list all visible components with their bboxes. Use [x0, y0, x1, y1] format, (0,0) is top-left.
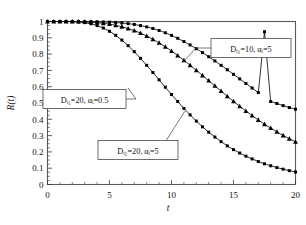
- data-point-marker: [120, 39, 123, 42]
- y-tick-label: 0.1: [32, 163, 43, 173]
- data-point-marker: [220, 140, 223, 143]
- data-point-marker: [158, 78, 161, 81]
- data-point-marker: [182, 40, 185, 43]
- data-point-marker: [189, 43, 192, 46]
- data-point-marker: [176, 37, 179, 40]
- data-point-marker: [281, 133, 286, 138]
- data-point-marker: [250, 113, 255, 118]
- y-axis-tick-labels: 00.10.20.30.40.50.60.70.80.91: [32, 17, 44, 190]
- data-point-marker: [251, 157, 254, 160]
- data-point-marker: [83, 21, 86, 24]
- data-point-marker: [220, 64, 223, 67]
- data-point-marker: [139, 57, 142, 60]
- data-point-marker: [151, 71, 154, 74]
- data-point-marker: [275, 102, 278, 105]
- x-axis-label: t: [167, 203, 170, 213]
- data-point-marker: [232, 73, 235, 76]
- data-point-marker: [182, 58, 187, 63]
- data-point-marker: [226, 144, 229, 147]
- data-point-marker: [158, 29, 161, 32]
- data-point-marker: [145, 64, 148, 67]
- x-axis-ticks: [48, 180, 296, 185]
- x-tick-label: 0: [45, 190, 50, 200]
- data-point-marker: [282, 104, 285, 107]
- y-tick-label: 0.9: [32, 33, 44, 43]
- data-point-marker: [195, 120, 198, 123]
- data-point-marker: [175, 53, 180, 58]
- data-point-marker: [238, 77, 241, 80]
- annotation-bottom: Dᵢ₁=20, αᵢ=5: [98, 141, 178, 160]
- data-point-marker: [207, 131, 210, 134]
- annotation-top: Dᵢ₁=10, αᵢ=5: [211, 39, 291, 58]
- y-tick-label: 0.3: [32, 131, 44, 141]
- data-point-marker: [288, 169, 291, 172]
- reliability-plot: 05101520 00.10.20.30.40.50.60.70.80.91 D…: [0, 0, 306, 225]
- data-point-marker: [139, 24, 142, 27]
- data-point-marker: [170, 34, 173, 37]
- data-point-marker: [96, 24, 99, 27]
- data-point-marker: [77, 20, 80, 23]
- x-tick-label: 10: [167, 190, 177, 200]
- data-point-marker: [244, 155, 247, 158]
- data-point-marker: [120, 21, 123, 24]
- data-point-marker: [213, 59, 216, 62]
- data-point-marker: [163, 44, 168, 49]
- annotation-bottom-label: Dᵢ₁=20, αᵢ=5: [117, 147, 158, 156]
- data-point-marker: [127, 22, 130, 25]
- data-point-marker: [102, 27, 105, 30]
- y-tick-label: 0.5: [32, 98, 44, 108]
- data-point-marker: [237, 104, 242, 109]
- data-point-marker: [151, 37, 156, 42]
- data-point-marker: [232, 148, 235, 151]
- y-tick-label: 0.8: [32, 49, 44, 59]
- data-point-marker: [282, 168, 285, 171]
- data-point-marker: [207, 55, 210, 58]
- data-point-marker: [189, 113, 192, 116]
- data-point-marker: [244, 82, 247, 85]
- annotation-middle: Dᵢ₁=20, αᵢ=0.5: [43, 90, 126, 109]
- y-tick-label: 0.4: [32, 115, 44, 125]
- data-point-marker: [262, 122, 267, 127]
- data-point-marker: [188, 63, 193, 68]
- data-point-marker: [257, 160, 260, 163]
- data-point-marker: [71, 20, 74, 23]
- y-tick-label: 0: [39, 180, 44, 190]
- annotation-top-label: Dᵢ₁=10, αᵢ=5: [230, 45, 271, 54]
- y-tick-label: 0.2: [32, 147, 43, 157]
- data-point-marker: [151, 27, 154, 30]
- data-point-marker: [263, 162, 266, 165]
- data-point-marker: [294, 170, 297, 173]
- annotation-middle-label: Dᵢ₁=20, αᵢ=0.5: [61, 96, 109, 105]
- data-point-marker: [46, 20, 49, 23]
- data-point-marker: [287, 136, 292, 141]
- data-point-marker: [288, 106, 291, 109]
- x-tick-label: 15: [229, 190, 239, 200]
- data-point-marker: [145, 25, 148, 28]
- chart-figure: 05101520 00.10.20.30.40.50.60.70.80.91 D…: [0, 0, 306, 225]
- data-point-marker: [226, 68, 229, 71]
- data-point-marker: [244, 108, 249, 113]
- data-point-marker: [164, 86, 167, 89]
- annotation-boxes: Dᵢ₁=10, αᵢ=5 Dᵢ₁=20, αᵢ=0.5 Dᵢ₁=20, αᵢ=5: [43, 39, 291, 160]
- data-point-marker: [108, 30, 111, 33]
- y-axis-label: R(t): [6, 96, 17, 112]
- data-point-marker: [294, 108, 297, 111]
- y-tick-label: 0.7: [32, 66, 44, 76]
- data-point-marker: [133, 50, 136, 53]
- x-tick-label: 20: [291, 190, 301, 200]
- data-point-marker: [213, 136, 216, 139]
- data-point-marker: [114, 34, 117, 37]
- data-point-marker: [293, 139, 298, 144]
- x-axis-tick-labels: 05101520: [45, 190, 300, 200]
- data-point-marker: [58, 20, 61, 23]
- y-tick-label: 1: [39, 17, 44, 27]
- data-point-marker: [176, 100, 179, 103]
- x-tick-label: 5: [107, 190, 112, 200]
- data-point-marker: [269, 164, 272, 167]
- data-point-marker: [133, 23, 136, 26]
- data-point-marker: [263, 30, 266, 33]
- data-point-marker: [257, 91, 260, 94]
- data-point-marker: [170, 93, 173, 96]
- data-point-marker: [269, 100, 272, 103]
- data-point-marker: [127, 44, 130, 47]
